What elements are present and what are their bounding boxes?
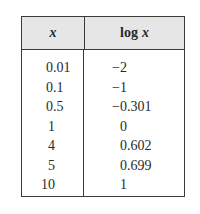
table-header: x logx — [22, 17, 184, 50]
cell-x: 0.5 — [22, 97, 83, 117]
cell-log-x: −0.301 — [84, 97, 184, 117]
header-log-label: log — [120, 25, 138, 41]
header-log-x: logx — [85, 17, 184, 49]
column-log-x: −2 −1 −0.301 0 0.602 0.699 1 — [84, 50, 184, 196]
cell-log-x: −2 — [84, 58, 184, 78]
cell-log-x: 1 — [84, 175, 184, 195]
cell-x: 4 — [22, 136, 83, 156]
cell-x: 0.01 — [22, 58, 83, 78]
cell-log-x: 0.602 — [84, 136, 184, 156]
column-x: 0.01 0.1 0.5 1 4 5 10 — [22, 50, 84, 196]
header-log-var: x — [142, 25, 149, 41]
cell-log-x: 0 — [84, 117, 184, 137]
cell-x: 0.1 — [22, 78, 83, 98]
cell-log-x: 0.699 — [84, 156, 184, 176]
cell-x: 1 — [22, 117, 83, 137]
cell-log-x: −1 — [84, 78, 184, 98]
header-x: x — [22, 17, 85, 49]
table-body: 0.01 0.1 0.5 1 4 5 10 −2 −1 −0.301 0 0.6… — [22, 50, 184, 196]
log-table: x logx 0.01 0.1 0.5 1 4 5 10 −2 −1 −0.30… — [21, 16, 185, 197]
cell-x: 5 — [22, 156, 83, 176]
cell-x: 10 — [22, 175, 83, 195]
